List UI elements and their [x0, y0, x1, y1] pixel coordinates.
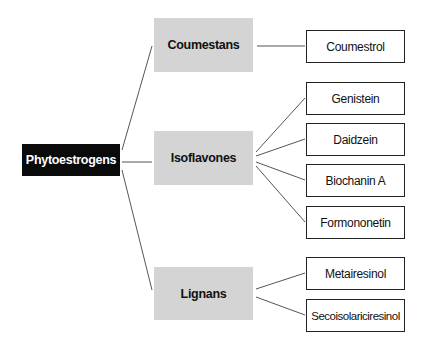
- leaf-node-formononetin: Formononetin: [306, 206, 405, 239]
- leaf-label: Metairesinol: [325, 267, 386, 281]
- category-label: Lignans: [181, 287, 227, 301]
- connector-isoflavones-formononetin: [256, 166, 305, 222]
- connector-lignans-metairesinol: [256, 273, 305, 289]
- root-node-phytoestrogens: Phytoestrogens: [22, 144, 120, 176]
- leaf-label: Formononetin: [320, 216, 390, 230]
- leaf-label: Biochanin A: [325, 174, 385, 188]
- diagram-canvas: Phytoestrogens Coumestans Isoflavones Li…: [0, 0, 428, 352]
- connector-isoflavones-genistein: [256, 98, 305, 152]
- category-label: Isoflavones: [171, 151, 236, 165]
- leaf-label: Secoisolariciresinol: [311, 310, 399, 322]
- category-label: Coumestans: [167, 38, 239, 52]
- category-node-isoflavones: Isoflavones: [154, 131, 253, 185]
- category-node-lignans: Lignans: [154, 267, 253, 320]
- leaf-node-genistein: Genistein: [306, 82, 405, 115]
- connector-lignans-secoisolariciresinol: [256, 297, 305, 315]
- leaf-node-daidzein: Daidzein: [306, 123, 405, 156]
- leaf-node-metairesinol: Metairesinol: [306, 257, 405, 290]
- connector-isoflavones-biochanin: [256, 162, 305, 180]
- leaf-node-biochanin-a: Biochanin A: [306, 164, 405, 197]
- leaf-label: Genistein: [332, 92, 380, 106]
- leaf-node-coumestrol: Coumestrol: [306, 30, 405, 63]
- connector-root-coumestans: [122, 46, 152, 150]
- connector-root-lignans: [122, 170, 152, 290]
- connector-isoflavones-daidzein: [256, 139, 305, 156]
- root-label: Phytoestrogens: [26, 153, 116, 167]
- leaf-label: Coumestrol: [326, 40, 384, 54]
- category-node-coumestans: Coumestans: [154, 18, 253, 72]
- leaf-label: Daidzein: [333, 133, 377, 147]
- leaf-node-secoisolariciresinol: Secoisolariciresinol: [306, 299, 405, 332]
